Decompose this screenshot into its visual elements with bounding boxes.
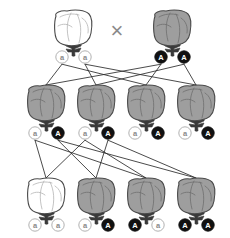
allele-label: A <box>205 221 211 230</box>
organism-body <box>28 178 65 214</box>
allele-f1-3-A: A <box>152 127 164 139</box>
organism-f1-3 <box>128 85 165 131</box>
allele-label: A <box>155 129 161 138</box>
allele-f2-2-A: A <box>102 219 114 231</box>
allele-parental-1-a: a <box>56 51 68 63</box>
inheritance-diagram: × aaAAaAaAaAaAaaaAAaAA <box>0 0 230 238</box>
cross-line-parental-to-f1 <box>96 64 184 85</box>
allele-f1-1-a: a <box>29 127 41 139</box>
organism-body <box>178 178 215 214</box>
organism-f2-4 <box>178 178 215 224</box>
allele-label: A <box>205 129 211 138</box>
parental-cross-symbol-group: × <box>111 18 124 43</box>
organism-body <box>128 178 165 214</box>
organism-body <box>78 85 115 121</box>
allele-parental-1-a: a <box>79 51 91 63</box>
cross-line-parental-to-f1 <box>46 64 62 85</box>
cross-line-f1-to-f2 <box>35 140 46 178</box>
organism-body <box>78 178 115 214</box>
allele-label: A <box>105 129 111 138</box>
organism-body <box>55 10 92 46</box>
allele-label: A <box>158 53 164 62</box>
organism-f2-1 <box>28 178 65 224</box>
allele-f2-1-a: a <box>29 219 41 231</box>
allele-f2-1-a: a <box>52 219 64 231</box>
organism-body <box>28 85 65 121</box>
allele-label: A <box>182 221 188 230</box>
allele-f2-3-A: A <box>129 219 141 231</box>
organism-f1-1 <box>28 85 65 131</box>
cross-line-f1-to-f2 <box>96 140 108 178</box>
allele-parental-2-A: A <box>178 51 190 63</box>
allele-f2-4-A: A <box>202 219 214 231</box>
cross-line-f1-to-f2 <box>108 140 196 178</box>
cross-line-parental-to-f1 <box>184 64 196 85</box>
cross-multiply-icon: × <box>111 18 124 43</box>
allele-f2-4-A: A <box>179 219 191 231</box>
organism-f2-2 <box>78 178 115 224</box>
organism-body <box>178 85 215 121</box>
allele-label: A <box>105 221 111 230</box>
organism-f1-2 <box>78 85 115 131</box>
allele-f1-2-A: A <box>102 127 114 139</box>
cross-line-f1-to-f2 <box>85 140 146 178</box>
allele-f2-2-a: a <box>79 219 91 231</box>
organism-body <box>154 10 191 46</box>
allele-f1-4-A: A <box>202 127 214 139</box>
cross-line-parental-to-f1 <box>146 64 161 85</box>
organism-body <box>128 85 165 121</box>
allele-label: A <box>181 53 187 62</box>
allele-parental-2-A: A <box>155 51 167 63</box>
allele-label: A <box>132 221 138 230</box>
allele-f1-3-a: a <box>129 127 141 139</box>
organism-f2-3 <box>128 178 165 224</box>
organism-parental-2 <box>154 10 191 56</box>
allele-f2-3-a: a <box>152 219 164 231</box>
allele-f1-1-A: A <box>52 127 64 139</box>
allele-f1-2-a: a <box>79 127 91 139</box>
organism-parental-1 <box>55 10 92 56</box>
cross-line-parental-to-f1 <box>85 64 96 85</box>
allele-f1-4-a: a <box>179 127 191 139</box>
organism-f1-4 <box>178 85 215 131</box>
allele-label: A <box>55 129 61 138</box>
